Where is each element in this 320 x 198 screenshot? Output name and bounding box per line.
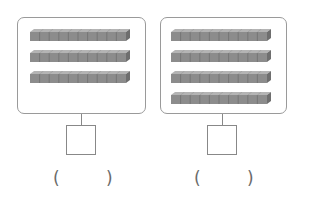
left-open-paren: ( <box>53 170 60 187</box>
left-connector-line <box>81 114 82 125</box>
ten-rod <box>30 26 130 45</box>
right-open-paren: ( <box>194 170 201 187</box>
left-close-paren: ) <box>106 170 113 187</box>
ten-rod <box>171 89 271 108</box>
ten-rod <box>171 47 271 66</box>
right-answer-box[interactable] <box>207 125 237 155</box>
ten-rod <box>30 47 130 66</box>
right-connector-line <box>222 114 223 125</box>
ten-rod <box>30 68 130 87</box>
ten-rod <box>171 68 271 87</box>
right-close-paren: ) <box>247 170 254 187</box>
ten-rod <box>171 26 271 45</box>
left-answer-box[interactable] <box>66 125 96 155</box>
